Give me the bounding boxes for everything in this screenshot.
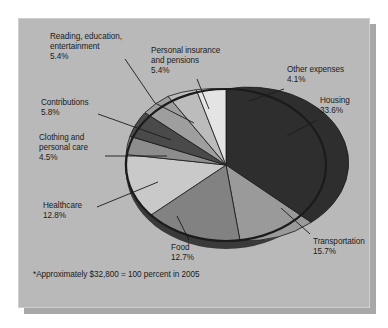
pie-chart-area: Reading, education, entertainment 5.4% P… [19, 19, 371, 309]
figure-root: Reading, education, entertainment 5.4% P… [0, 0, 388, 328]
label-text-line2: personal care [39, 143, 88, 152]
label-contributions: Contributions 5.8% [41, 98, 89, 118]
label-text-line1: Healthcare [43, 201, 82, 210]
label-text-line3: 5.4% [50, 52, 68, 61]
label-text-line3: 5.4% [151, 66, 169, 75]
label-text-line2: 12.7% [171, 253, 194, 262]
label-text-line3: 4.5% [39, 153, 57, 162]
label-text-line1: Contributions [41, 98, 89, 107]
label-text-line1: Housing [320, 96, 350, 105]
label-transportation: Transportation 15.7% [313, 237, 365, 257]
label-text-line2: 12.8% [43, 211, 66, 220]
label-housing: Housing 33.6% [320, 96, 350, 116]
label-text-line2: and pensions [151, 56, 199, 65]
label-text-line1: Clothing and [39, 133, 84, 142]
chart-footnote: *Approximately $32,800 = 100 percent in … [33, 270, 199, 279]
label-text-line2: 4.1% [287, 75, 305, 84]
label-reading-education-entertainment: Reading, education, entertainment 5.4% [50, 32, 122, 63]
label-personal-insurance-pensions: Personal insurance and pensions 5.4% [151, 46, 220, 77]
label-text-line1: Transportation [313, 237, 365, 246]
label-text-line1: Other expenses [287, 65, 344, 74]
label-text-line2: entertainment [50, 42, 99, 51]
label-text-line1: Food [171, 243, 189, 252]
label-text-line2: 33.6% [320, 106, 343, 115]
label-food: Food 12.7% [171, 243, 194, 263]
label-text-line2: 5.8% [41, 108, 59, 117]
label-healthcare: Healthcare 12.8% [43, 201, 82, 221]
chart-panel: Reading, education, entertainment 5.4% P… [18, 18, 370, 308]
label-text-line2: 15.7% [313, 247, 336, 256]
label-clothing: Clothing and personal care 4.5% [39, 133, 88, 164]
label-text-line1: Reading, education, [50, 32, 122, 41]
label-text-line1: Personal insurance [151, 46, 220, 55]
label-other-expenses: Other expenses 4.1% [287, 65, 344, 85]
